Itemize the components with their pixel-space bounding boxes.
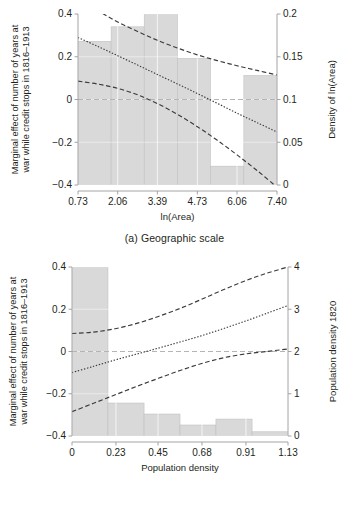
y-axis-left-ticks: 0.40.20−0.2−0.4: [46, 261, 72, 441]
x-axis-ticks: 00.230.450.680.911.13: [69, 442, 298, 458]
histogram-bar: [78, 41, 111, 185]
y-tick-label-right: 0.2: [283, 8, 297, 19]
x-tick-label: 4.73: [188, 196, 208, 207]
y-tick-label-right: 1: [294, 388, 300, 399]
y-tick-label-left: −0.4: [46, 430, 66, 441]
y-tick-label-right: 0: [283, 179, 289, 190]
y-axis-title-left: Marginal effect of number of years atwar…: [10, 24, 31, 174]
histogram-bar: [108, 403, 144, 436]
histogram-bar: [144, 414, 180, 436]
histogram-bar: [180, 425, 216, 436]
y-axis-title-right: Population density 1820: [327, 301, 338, 402]
x-tick-label: 0.45: [148, 447, 168, 458]
x-tick-label: 7.40: [267, 196, 287, 207]
x-axis-title: Population density: [141, 462, 219, 473]
y-axis-title-right-text: Density of ln(Area): [326, 60, 337, 139]
chart-panel-b: 0.40.20−0.2−0.44321000.230.450.680.911.1…: [0, 255, 349, 511]
x-tick-label: 0.23: [106, 447, 126, 458]
x-axis-title: ln(Area): [161, 211, 195, 222]
y-tick-label-left: −0.4: [52, 179, 72, 190]
y-tick-label-right: 0.05: [283, 137, 303, 148]
x-tick-label: 3.39: [148, 196, 168, 207]
panel-a-plot: 0.40.20−0.2−0.40.20.150.10.0500.732.063.…: [0, 0, 349, 232]
y-tick-label-right: 0.1: [283, 94, 297, 105]
y-axis-title-right: Density of ln(Area): [326, 60, 337, 139]
histogram-bar: [111, 27, 144, 185]
panel-b-plot: 0.40.20−0.2−0.44321000.230.450.680.911.1…: [0, 255, 349, 488]
x-tick-label: 0: [69, 447, 75, 458]
y-tick-label-right: 0: [294, 430, 300, 441]
x-tick-label: 0.73: [68, 196, 88, 207]
y-tick-label-right: 3: [294, 304, 300, 315]
y-tick-label-right: 2: [294, 346, 300, 357]
y-tick-label-left: 0.2: [52, 304, 66, 315]
y-tick-label-left: 0: [66, 94, 72, 105]
y-axis-right-ticks: 0.20.150.10.050: [277, 8, 303, 190]
y-axis-right-ticks: 43210: [288, 261, 300, 441]
histogram-bar: [252, 432, 288, 436]
y-axis-title-left-line1: Marginal effect of number of years at: [8, 276, 18, 426]
y-tick-label-left: 0.4: [52, 261, 66, 272]
y-axis-left-ticks: 0.40.20−0.2−0.4: [52, 8, 78, 190]
y-axis-title-right-text: Population density 1820: [327, 301, 338, 402]
x-tick-label: 0.91: [236, 447, 256, 458]
y-axis-title-left-line2: war while credit stops in 1816–1913: [19, 278, 29, 425]
y-tick-label-right: 4: [294, 261, 300, 272]
y-axis-title-left-line1: Marginal effect of number of years at: [10, 24, 20, 174]
y-axis-title-left-line2: war while credit stops in 1816–1913: [21, 26, 31, 173]
histogram-bar: [216, 419, 252, 436]
figure-container: 0.40.20−0.2−0.40.20.150.10.0500.732.063.…: [0, 0, 349, 511]
y-tick-label-left: 0: [60, 346, 66, 357]
chart-panel-a: 0.40.20−0.2−0.40.20.150.10.0500.732.063.…: [0, 0, 349, 255]
y-tick-label-left: −0.2: [46, 388, 66, 399]
y-tick-label-right: 0.15: [283, 51, 303, 62]
histogram-bar: [177, 58, 210, 185]
x-tick-label: 2.06: [108, 196, 128, 207]
x-tick-label: 1.13: [278, 447, 298, 458]
y-tick-label-left: 0.4: [58, 8, 72, 19]
histogram-bar: [210, 166, 243, 185]
x-tick-label: 0.68: [192, 447, 212, 458]
y-tick-label-left: −0.2: [52, 137, 72, 148]
x-tick-label: 6.06: [227, 196, 247, 207]
panel-a-caption: (a) Geographic scale: [0, 232, 349, 244]
x-axis-ticks: 0.732.063.394.736.067.40: [68, 191, 287, 207]
y-tick-label-left: 0.2: [58, 51, 72, 62]
y-axis-title-left: Marginal effect of number of years atwar…: [8, 276, 29, 426]
